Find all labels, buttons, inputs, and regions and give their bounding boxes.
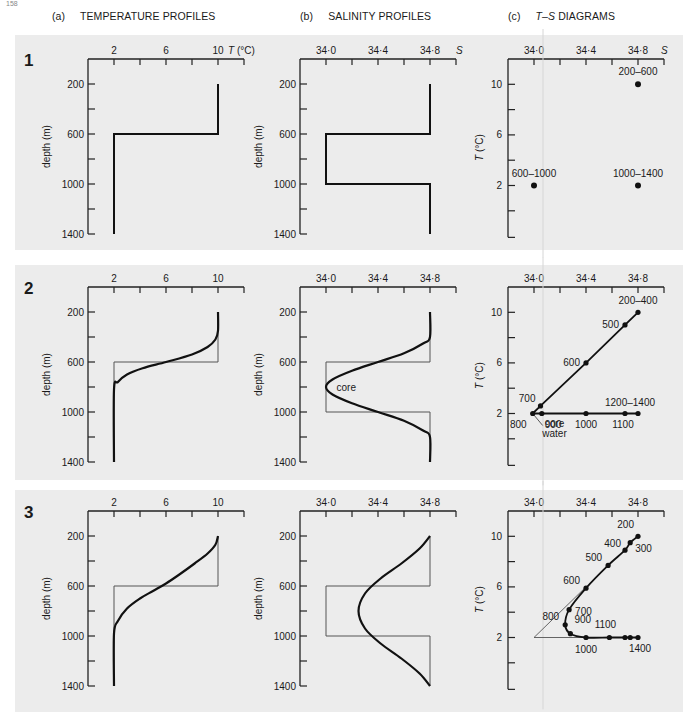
row-label: 2 [24,279,33,298]
ts-point-label: 1400 [629,643,652,654]
y-axis-label: T (°C) [474,134,485,161]
profile-curve [114,312,218,462]
ts-point-label: 600–1000 [512,168,557,179]
ts-point [583,586,588,591]
step-profile [114,312,218,462]
ts-point [539,411,544,416]
x-tick-label: 34·4 [368,273,388,284]
y-axis-label: T (°C) [474,586,485,613]
x-tick-label: 2 [111,45,117,56]
ts-point [530,411,535,416]
y-tick-label: 6 [496,129,502,140]
annotation: core [337,382,357,393]
ts-point [628,540,633,545]
chart-2c: 34·034·434·82610T (°C)200–40050060070080… [474,257,664,485]
row-3: 261020060010001400depth (m)34·034·434·82… [41,481,664,709]
ts-point [583,360,588,365]
x-tick-label: 34·8 [628,497,648,508]
chart-1a: 2610T (°C)20060010001400depth (m) [41,45,255,240]
x-tick-label: 34·4 [576,273,596,284]
x-tick-label: 34·4 [368,497,388,508]
x-tick-label: 34·0 [316,273,336,284]
profile-curve [114,536,218,686]
ts-point [567,607,572,612]
ts-point-label: 1000 [575,419,598,430]
ts-point-label: 300 [635,543,652,554]
ts-point [531,183,537,189]
row-label: 1 [24,51,33,70]
ts-point [628,635,633,640]
ts-point-label: 500 [585,552,602,563]
x-tick-label: 34·8 [420,273,440,284]
ts-point [635,81,641,87]
depth-tick-label: 1000 [274,179,297,190]
chart-3a: 261020060010001400depth (m) [41,497,244,692]
depth-tick-label: 1000 [62,631,85,642]
step-profile [114,84,218,234]
ts-point-label: 200–600 [619,66,658,77]
ts-point-label: 600 [563,357,580,368]
ts-point-label: 1200–1400 [605,397,655,408]
depth-tick-label: 1000 [274,407,297,418]
depth-tick-label: 1000 [62,407,85,418]
depth-axis-label: depth (m) [41,125,52,168]
x-tick-label: 34·8 [628,45,648,56]
depth-tick-label: 600 [67,357,84,368]
x-tick-label: 34·0 [316,45,336,56]
depth-tick-label: 1400 [274,457,297,468]
x-tick-label: 34·0 [524,45,544,56]
y-axis-label: T (°C) [474,362,485,389]
ts-point [635,635,640,640]
ts-point [583,411,588,416]
ts-point [606,563,611,568]
depth-tick-label: 1000 [62,179,85,190]
depth-axis-label: depth (m) [41,353,52,396]
x-tick-label: 34·4 [576,45,596,56]
profile-curve [359,536,431,686]
x-tick-label: 10 [212,273,224,284]
ts-point [635,310,640,315]
chart-1b: 34·034·434·8S20060010001400depth (m) [253,45,463,240]
ts-point-label: 200–400 [619,295,658,306]
row-2: 261020060010001400depth (m)34·034·434·82… [41,257,664,485]
depth-tick-label: 200 [279,531,296,542]
depth-tick-label: 600 [279,581,296,592]
x-tick-label: 34·8 [628,273,648,284]
ts-point-label: 600 [563,575,580,586]
ts-point-label: 700 [519,393,536,404]
x-tick-label: 34·8 [420,497,440,508]
step-profile [326,536,430,686]
chart-2b: 34·034·434·820060010001400depth (m)core [253,273,456,468]
ts-point [538,403,543,408]
y-tick-label: 6 [496,581,502,592]
chart-3c: 34·034·434·82610T (°C)200300400500600700… [474,481,664,709]
depth-tick-label: 200 [67,307,84,318]
ts-point-label: 1100 [595,619,617,630]
depth-axis-label: depth (m) [253,125,264,168]
depth-tick-label: 1000 [274,631,297,642]
depth-tick-label: 1400 [62,457,85,468]
depth-tick-label: 200 [67,531,84,542]
x-tick-label: 10 [212,497,224,508]
ts-point [622,322,627,327]
depth-tick-label: 600 [279,357,296,368]
chart-3b: 34·034·434·820060010001400depth (m) [253,497,456,692]
ts-point-label: 500 [602,319,619,330]
figure-canvas: 2610T (°C)20060010001400depth (m)34·034·… [0,0,694,717]
x-tick-label: 34·4 [576,497,596,508]
row-1: 2610T (°C)20060010001400depth (m)34·034·… [41,29,668,257]
chart-2a: 261020060010001400depth (m) [41,273,244,468]
depth-axis-label: depth (m) [253,353,264,396]
row-label: 3 [24,503,33,522]
depth-axis-label: depth (m) [253,577,264,620]
x-tick-label: 34·4 [368,45,388,56]
x-tick-label: 34·8 [420,45,440,56]
ts-point [635,183,641,189]
ts-point [635,411,640,416]
depth-axis-label: depth (m) [41,577,52,620]
ts-point-label: 1000–1400 [613,168,663,179]
y-tick-label: 6 [496,357,502,368]
ts-point [622,548,627,553]
depth-tick-label: 600 [279,129,296,140]
x-tick-label: 2 [111,273,117,284]
